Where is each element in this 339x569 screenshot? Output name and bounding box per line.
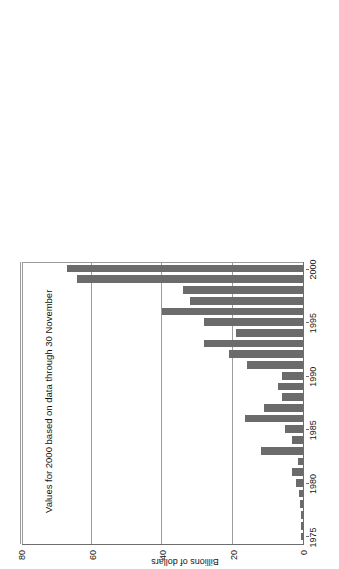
bar-1997 <box>190 297 303 305</box>
plot-area: Values for 2000 based on data through 30… <box>22 262 304 545</box>
gridline <box>20 262 21 544</box>
value-axis-title-wrap: Billions of dollars <box>22 556 304 567</box>
value-tick-0: 0 <box>299 550 309 555</box>
bar-1995 <box>204 318 303 326</box>
bar-1988 <box>282 393 303 401</box>
bar-1979 <box>299 490 303 498</box>
bar-1990 <box>282 372 303 380</box>
bar-1982 <box>298 458 303 466</box>
bar-1987 <box>264 404 303 412</box>
bar-1991 <box>247 361 303 369</box>
year-tick-1975: 1975 <box>308 527 318 547</box>
year-tick-1980: 1980 <box>308 474 318 494</box>
bars-layer <box>22 262 303 544</box>
year-tick-mark <box>306 322 309 323</box>
bar-1985 <box>285 425 303 433</box>
bar-1976 <box>301 522 303 530</box>
bar-1983 <box>261 447 303 455</box>
bar-1977 <box>301 511 303 519</box>
year-tick-mark <box>306 537 309 538</box>
year-tick-mark <box>306 376 309 377</box>
bar-1998 <box>183 286 303 294</box>
year-tick-mark <box>306 483 309 484</box>
bar-1984 <box>292 436 303 444</box>
bar-1993 <box>204 340 303 348</box>
bar-1996 <box>162 308 303 316</box>
year-tick-2000: 2000 <box>308 260 318 280</box>
bar-1975 <box>301 533 303 541</box>
year-tick-mark <box>306 269 309 270</box>
year-tick-mark <box>306 429 309 430</box>
bar-1992 <box>229 350 303 358</box>
bar-1980 <box>296 479 303 487</box>
bar-2000 <box>67 265 303 273</box>
year-tick-1995: 1995 <box>308 313 318 333</box>
rotated-chart-stage: Values for 2000 based on data through 30… <box>0 0 339 569</box>
bar-1994 <box>236 329 303 337</box>
year-tick-1990: 1990 <box>308 367 318 387</box>
value-axis-title: Billions of dollars <box>44 557 326 567</box>
category-axis-ticks: 197519801985199019952000 <box>306 262 328 545</box>
bar-1981 <box>292 468 303 476</box>
year-tick-1985: 1985 <box>308 420 318 440</box>
bar-1999 <box>77 275 303 283</box>
bar-1986 <box>245 415 303 423</box>
chart-annotation: Values for 2000 based on data through 30… <box>43 290 54 513</box>
figure-canvas: Values for 2000 based on data through 30… <box>0 0 339 569</box>
bar-1978 <box>300 501 303 509</box>
bar-1989 <box>278 383 303 391</box>
